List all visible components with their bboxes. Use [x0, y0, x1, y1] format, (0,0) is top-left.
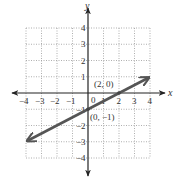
- point-label-2-0: (2, 0): [94, 79, 114, 89]
- origin-label: 0: [91, 95, 96, 105]
- x-tick-label: 2: [117, 96, 122, 106]
- x-tick-labels: −4 −3 −2 −1 0 1 2 3 4: [19, 95, 153, 106]
- y-tick-label: 3: [81, 39, 86, 49]
- point-2-0: [117, 91, 121, 95]
- coordinate-graph: x y −4 −3 −2 −1 0 1 2 3 4 4 3 2 1 −1 −2 …: [0, 0, 181, 182]
- x-tick-label: 3: [132, 96, 137, 106]
- y-tick-label: 4: [81, 23, 86, 33]
- x-tick-label: −4: [19, 96, 29, 106]
- y-tick-label: 1: [81, 72, 86, 82]
- point-label-0-neg1: (0, −1): [90, 112, 115, 122]
- x-tick-label: −2: [50, 96, 60, 106]
- x-axis-label: x: [167, 87, 173, 98]
- point-0-neg1: [86, 107, 90, 111]
- y-axis-label: y: [84, 0, 90, 11]
- x-tick-label: 4: [148, 96, 153, 106]
- y-tick-label: −3: [76, 137, 86, 147]
- y-tick-label: −4: [76, 153, 86, 163]
- x-tick-label: −1: [66, 96, 76, 106]
- y-tick-label: 2: [81, 56, 86, 66]
- x-tick-label: −3: [35, 96, 45, 106]
- y-tick-label: −2: [76, 121, 86, 131]
